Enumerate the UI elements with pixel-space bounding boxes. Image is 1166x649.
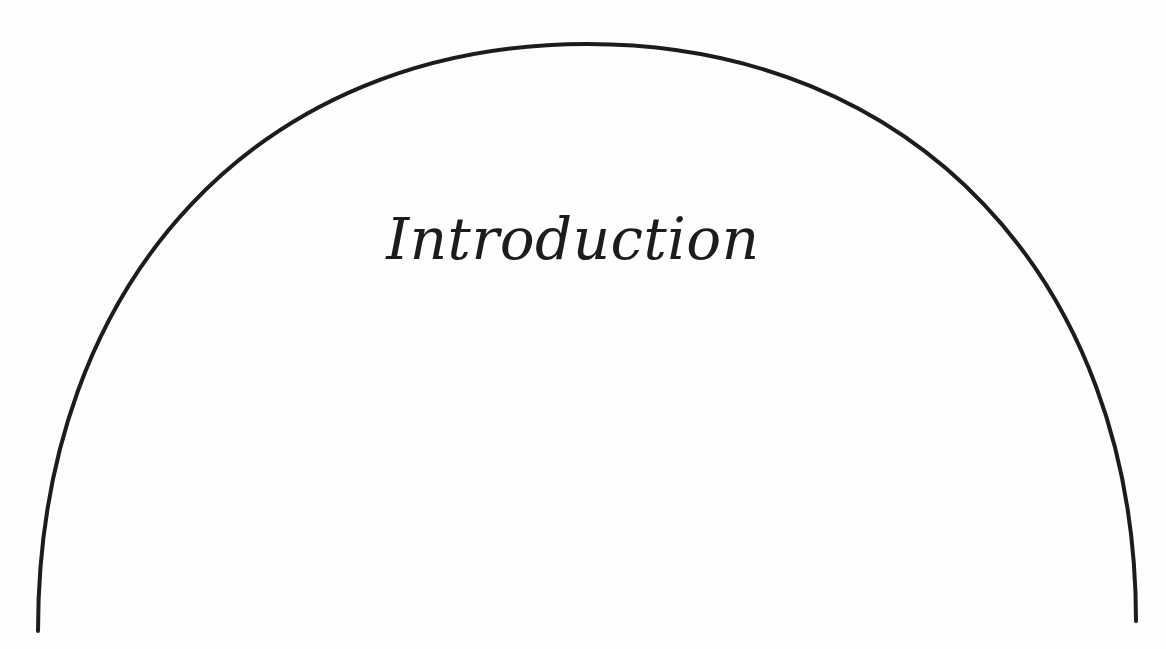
arc-line: [38, 44, 1136, 631]
book-page: Introduction: [0, 0, 1166, 649]
chapter-title: Introduction: [0, 205, 1156, 273]
arc-ornament: [0, 0, 1166, 649]
